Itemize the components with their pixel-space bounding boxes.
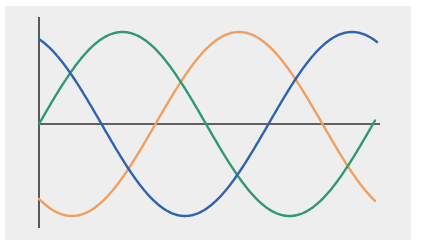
line-chart — [0, 0, 422, 249]
